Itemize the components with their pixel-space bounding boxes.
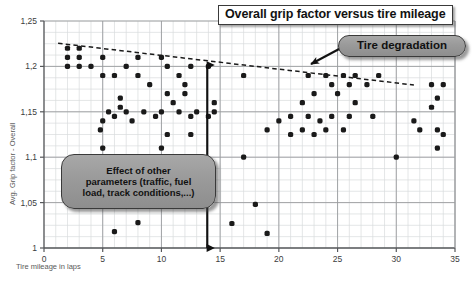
x-tick-label: 30 <box>392 254 402 264</box>
y-tick-label: 1,05 <box>20 198 37 208</box>
data-point <box>417 127 422 132</box>
data-point <box>435 127 440 132</box>
data-point <box>100 73 105 78</box>
callout-params-line2: parameters (traffic, fuel <box>83 176 195 187</box>
data-point <box>182 82 187 87</box>
data-point <box>353 100 358 105</box>
data-point <box>276 118 281 123</box>
data-point <box>329 114 334 119</box>
data-point <box>411 118 416 123</box>
x-axis-title: Tire mileage in laps <box>16 262 81 271</box>
callout-tire-degradation: Tire degradation <box>338 35 466 57</box>
data-point <box>159 109 164 114</box>
data-point <box>176 73 181 78</box>
data-point <box>335 91 340 96</box>
chart-screenshot: 11,051,11,151,21,25 05101520253035 Avg. … <box>0 0 476 286</box>
data-point <box>135 220 140 225</box>
y-tick-label: 1,25 <box>20 16 37 26</box>
data-point <box>394 155 399 160</box>
data-point <box>188 64 193 69</box>
x-tick-label: 35 <box>450 254 460 264</box>
data-point <box>376 73 381 78</box>
data-point <box>300 127 305 132</box>
data-point <box>353 73 358 78</box>
data-point <box>100 55 105 60</box>
y-tick-labels: 11,051,11,151,21,25 <box>20 16 37 253</box>
y-tick-label: 1 <box>32 243 37 253</box>
data-point <box>300 100 305 105</box>
data-point <box>65 55 70 60</box>
data-point <box>212 100 217 105</box>
data-point <box>435 96 440 101</box>
callout-params-line3: load, track conditions,...) <box>83 187 195 198</box>
data-point <box>147 82 152 87</box>
y-tick-label: 1,2 <box>25 61 37 71</box>
y-tick-label: 1,15 <box>20 107 37 117</box>
x-tick-label: 25 <box>333 254 343 264</box>
data-point <box>100 146 105 151</box>
data-point <box>347 114 352 119</box>
data-point <box>188 132 193 137</box>
x-tick-label: 20 <box>274 254 284 264</box>
data-point <box>429 105 434 110</box>
data-point <box>135 55 140 60</box>
data-point <box>165 91 170 96</box>
data-point <box>176 109 181 114</box>
data-point <box>241 73 246 78</box>
data-point <box>306 73 311 78</box>
data-point <box>311 132 316 137</box>
data-point <box>323 127 328 132</box>
data-point <box>112 229 117 234</box>
data-point <box>165 64 170 69</box>
data-point <box>347 82 352 87</box>
data-point <box>441 82 446 87</box>
data-point <box>429 82 434 87</box>
data-point <box>188 114 193 119</box>
data-point <box>159 146 164 151</box>
y-tick-label: 1,1 <box>25 152 37 162</box>
data-point <box>265 127 270 132</box>
data-point <box>253 202 258 207</box>
callout-tire-degradation-label: Tire degradation <box>357 39 447 53</box>
data-point <box>106 109 111 114</box>
data-point <box>329 82 334 87</box>
data-point <box>171 100 176 105</box>
data-point <box>182 91 187 96</box>
data-point <box>88 64 93 69</box>
data-point <box>112 73 117 78</box>
data-point <box>441 132 446 137</box>
x-tick-labels: 05101520253035 <box>42 254 460 264</box>
callout-params-line1: Effect of other <box>83 165 195 176</box>
data-point <box>118 105 123 110</box>
data-point <box>77 64 82 69</box>
data-point <box>65 64 70 69</box>
data-point <box>370 114 375 119</box>
data-point <box>229 221 234 226</box>
data-point <box>241 155 246 160</box>
data-point <box>124 64 129 69</box>
data-point <box>65 46 70 51</box>
data-point <box>98 127 103 132</box>
data-point <box>141 109 146 114</box>
data-point <box>194 109 199 114</box>
chart-title: Overall grip factor versus tire mileage <box>218 5 453 25</box>
data-point <box>129 118 134 123</box>
data-point <box>435 146 440 151</box>
callout-other-parameters: Effect of other parameters (traffic, fue… <box>61 154 216 209</box>
data-point <box>265 231 270 236</box>
data-point <box>364 82 369 87</box>
data-point <box>311 91 316 96</box>
data-point <box>165 132 170 137</box>
data-point <box>77 55 82 60</box>
data-point <box>112 114 117 119</box>
data-point <box>341 127 346 132</box>
data-point <box>317 118 322 123</box>
data-point <box>306 114 311 119</box>
data-point <box>124 109 129 114</box>
data-point <box>100 118 105 123</box>
data-point <box>288 132 293 137</box>
x-tick-label: 15 <box>215 254 225 264</box>
data-point <box>288 114 293 119</box>
data-point <box>118 96 123 101</box>
data-point <box>212 109 217 114</box>
